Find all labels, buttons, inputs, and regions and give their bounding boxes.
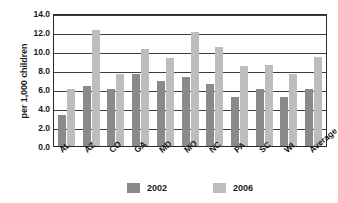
bar-group	[252, 15, 277, 146]
bar-group	[227, 15, 252, 146]
y-axis-tick-label: 4.0	[20, 104, 50, 114]
bar-group	[178, 15, 203, 146]
bar	[92, 30, 100, 146]
plot-area	[53, 14, 327, 147]
bar-group	[103, 15, 128, 146]
legend-label: 2006	[233, 183, 253, 193]
bar	[280, 97, 288, 146]
bar	[166, 58, 174, 146]
bar-group	[153, 15, 178, 146]
bar	[141, 49, 149, 146]
bar	[314, 57, 322, 146]
bar	[265, 65, 273, 146]
y-axis-tick-label: 8.0	[20, 66, 50, 76]
bar	[182, 77, 190, 146]
bar	[157, 81, 165, 146]
bar	[289, 74, 297, 146]
chart-legend: 20022006	[53, 180, 327, 196]
bar-group	[277, 15, 302, 146]
legend-label: 2002	[147, 183, 167, 193]
legend-swatch	[127, 183, 140, 193]
bar	[107, 89, 115, 146]
y-axis-tick-label: 10.0	[20, 47, 50, 57]
legend-entry[interactable]: 2002	[127, 183, 167, 193]
bar	[215, 47, 223, 146]
y-axis-tick-label: 12.0	[20, 28, 50, 38]
bar	[67, 89, 75, 146]
y-axis-tick-label: 6.0	[20, 85, 50, 95]
bar-group	[54, 15, 79, 146]
y-axis-tick-label: 2.0	[20, 123, 50, 133]
bar	[132, 74, 140, 146]
bar-group	[301, 15, 326, 146]
bar	[116, 74, 124, 146]
legend-swatch	[213, 183, 226, 193]
y-axis-tick-label: 0.0	[20, 142, 50, 152]
bar-group	[128, 15, 153, 146]
bar-group	[202, 15, 227, 146]
bar-group	[79, 15, 104, 146]
bar	[206, 84, 214, 146]
x-axis-tick-labels: ALAZCOGAMDMONCPASCWIAverage	[53, 147, 327, 177]
bar	[256, 89, 264, 146]
bar	[240, 66, 248, 146]
bar	[305, 89, 313, 146]
legend-entry[interactable]: 2006	[213, 183, 253, 193]
y-axis-tick-labels: 0.02.04.06.08.010.012.014.0	[20, 14, 50, 147]
bar	[83, 86, 91, 146]
bar-groups	[54, 15, 326, 146]
bar	[191, 32, 199, 146]
bar	[231, 97, 239, 146]
y-axis-tick-label: 14.0	[20, 9, 50, 19]
